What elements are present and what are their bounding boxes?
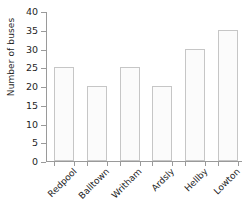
y-axis-tick-mark: [41, 143, 46, 144]
y-axis-title: Number of buses: [6, 2, 16, 112]
x-axis-tick-mark: [87, 162, 88, 166]
x-axis-tick-mark: [205, 162, 206, 166]
y-axis-line: [46, 12, 47, 162]
bar: [120, 67, 140, 161]
x-axis-line: [46, 161, 242, 162]
x-axis-label: Hellby: [183, 167, 209, 193]
y-axis-tick-mark: [41, 12, 46, 13]
x-axis-label: Lowton: [213, 167, 242, 196]
x-axis-tick-mark: [152, 162, 153, 166]
x-axis-label: Balltown: [78, 167, 112, 201]
x-axis-tick-mark: [74, 162, 75, 166]
y-axis-tick-label: 15: [26, 101, 38, 111]
x-axis-tick-mark: [218, 162, 219, 166]
x-axis-label: Ardsly: [151, 167, 177, 193]
x-axis-tick-mark: [238, 162, 239, 166]
y-axis-tick-label: 10: [26, 120, 38, 130]
x-axis-label: Redpool: [47, 167, 79, 199]
x-axis-tick-mark: [172, 162, 173, 166]
y-axis-tick-label: 35: [26, 26, 38, 36]
plot-area: 0510152025303540: [46, 12, 242, 162]
y-axis-tick-mark: [41, 68, 46, 69]
bar-chart: Number of buses 0510152025303540 Redpool…: [0, 0, 250, 213]
bar: [185, 49, 205, 162]
y-axis-tick-label: 5: [32, 139, 38, 149]
y-axis-tick-mark: [41, 50, 46, 51]
x-axis-tick-mark: [107, 162, 108, 166]
y-axis-tick-label: 0: [32, 157, 38, 167]
y-axis-tick-mark: [41, 87, 46, 88]
y-axis-tick-label: 20: [26, 82, 38, 92]
bar: [218, 30, 238, 161]
y-axis-tick-label: 25: [26, 64, 38, 74]
bar: [54, 67, 74, 161]
x-axis-tick-mark: [140, 162, 141, 166]
y-axis-tick-mark: [41, 31, 46, 32]
y-axis-tick-mark: [41, 125, 46, 126]
x-axis-label: Writham: [111, 167, 144, 200]
y-axis-tick-mark: [41, 106, 46, 107]
y-axis-tick-label: 30: [26, 45, 38, 55]
x-axis-tick-mark: [185, 162, 186, 166]
x-axis-tick-mark: [120, 162, 121, 166]
y-axis-tick-label: 40: [26, 7, 38, 17]
bar: [87, 86, 107, 161]
bar: [152, 86, 172, 161]
x-axis-tick-mark: [54, 162, 55, 166]
y-axis-tick-mark: [41, 162, 46, 163]
